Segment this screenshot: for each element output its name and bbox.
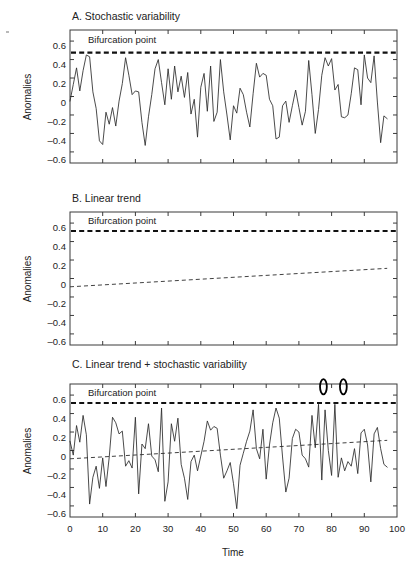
xtick-label: 70 [294, 523, 305, 534]
ytick-label: 0.4 [53, 59, 66, 70]
ytick-label: –0.2 [48, 470, 67, 481]
panel-c-title: C. Linear trend + stochastic variability [72, 358, 248, 370]
ytick-label: 0.6 [53, 394, 66, 405]
scan-speck [6, 31, 9, 33]
xtick-label: 80 [326, 523, 337, 534]
panel-c-bifurcation-label: Bifurcation point [88, 387, 156, 398]
panel-c-ylabel: Anomalies [22, 428, 33, 475]
xtick-label: 30 [163, 523, 174, 534]
panel-a-title: A. Stochastic variability [72, 10, 181, 22]
panel-b-title: B. Linear trend [72, 192, 141, 204]
xtick-label: 100 [389, 523, 405, 534]
xtick-label: 50 [228, 523, 239, 534]
xtick-label: 40 [196, 523, 207, 534]
ytick-label: 0 [61, 451, 66, 462]
panel-a-bifurcation-label: Bifurcation point [88, 34, 156, 45]
ytick-label: –0.4 [48, 489, 67, 500]
ytick-label: –0.6 [48, 336, 67, 347]
ytick-label: 0.2 [53, 78, 66, 89]
ytick-label: –0.6 [48, 508, 67, 519]
figure-root: A. Stochastic variability Anomalies 0.6 … [0, 0, 412, 564]
ytick-label: 0.2 [53, 432, 66, 443]
panel-a-ylabel: Anomalies [22, 74, 33, 121]
panel-b-ylabel: Anomalies [22, 256, 33, 303]
panel-c-xlabel: Time [222, 547, 244, 558]
ytick-label: –0.2 [48, 298, 67, 309]
xtick-label: 0 [67, 523, 72, 534]
ytick-label: 0.6 [53, 222, 66, 233]
ytick-label: –0.4 [48, 135, 67, 146]
xtick-label: 20 [130, 523, 141, 534]
ytick-label: –0.6 [48, 154, 67, 165]
ytick-label: 0.6 [53, 40, 66, 51]
ytick-label: 0.2 [53, 260, 66, 271]
panel-b-bifurcation-label: Bifurcation point [88, 215, 156, 226]
ytick-label: 0.4 [53, 413, 66, 424]
ytick-label: –0.4 [48, 317, 67, 328]
xtick-label: 10 [97, 523, 108, 534]
ytick-label: 0 [61, 97, 66, 108]
xtick-label: 90 [359, 523, 370, 534]
ytick-label: –0.2 [48, 116, 67, 127]
ytick-label: 0 [61, 279, 66, 290]
ytick-label: 0.4 [53, 241, 66, 252]
xtick-label: 60 [261, 523, 272, 534]
